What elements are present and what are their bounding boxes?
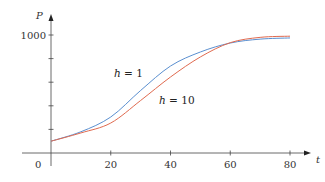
series-label-h10: h = 10	[159, 94, 195, 106]
y-ticks: 1000	[21, 30, 54, 130]
series-line-h1	[51, 38, 290, 141]
y-tick-label: 1000	[21, 30, 46, 41]
axes: 20406080 1000 0 t P	[21, 10, 321, 170]
x-axis-arrow-icon	[304, 151, 311, 156]
x-ticks: 20406080	[104, 151, 296, 171]
x-tick-label: 40	[164, 159, 177, 170]
series-line-h10	[51, 36, 290, 141]
x-tick-label: 80	[284, 159, 297, 170]
series-lines	[51, 36, 290, 141]
x-tick-label: 20	[104, 159, 117, 170]
x-axis-label: t	[316, 154, 321, 165]
origin-label: 0	[35, 159, 41, 170]
logistic-euler-chart: 20406080 1000 0 t P h = 1 h = 10	[0, 0, 325, 182]
x-tick-label: 60	[224, 159, 237, 170]
y-axis-label: P	[35, 10, 43, 21]
y-axis-arrow-icon	[49, 14, 54, 21]
series-label-h1: h = 1	[114, 67, 143, 79]
